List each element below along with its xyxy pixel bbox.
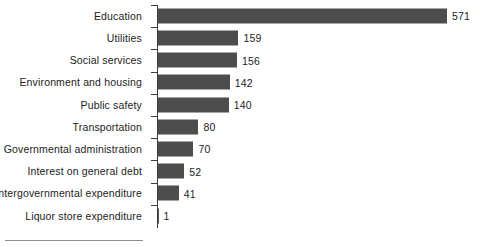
bar (158, 30, 238, 45)
bar-row: Education571 (0, 5, 480, 27)
bar (158, 75, 230, 90)
bar-and-value: 70 (158, 141, 210, 156)
bar-category-label: Liquor store expenditure (25, 210, 142, 222)
bar-value-label: 1 (164, 210, 170, 222)
axis-tick (151, 205, 157, 206)
axis-tick (151, 138, 157, 139)
bar (158, 208, 159, 223)
bar-row: Social services156 (0, 49, 480, 71)
bar-and-value: 142 (158, 75, 253, 90)
bar-row: Transportation80 (0, 116, 480, 138)
bar-row: Intergovernmental expenditure41 (0, 183, 480, 205)
bar-category-label: Education (94, 10, 142, 22)
bar-and-value: 571 (158, 8, 470, 23)
axis-tick (151, 183, 157, 184)
bar-category-label: Intergovernmental expenditure (0, 187, 142, 199)
bar-category-label: Utilities (107, 32, 142, 44)
bar-value-label: 80 (203, 121, 215, 133)
bar-value-label: 41 (184, 187, 196, 199)
bar (158, 8, 447, 23)
axis-tick (151, 5, 157, 6)
bar (158, 53, 237, 68)
bar-value-label: 159 (243, 32, 261, 44)
axis-tick (151, 116, 157, 117)
bar-category-label: Public safety (81, 99, 142, 111)
bar (158, 119, 198, 134)
axis-tick (151, 27, 157, 28)
bar-value-label: 70 (198, 143, 210, 155)
bar-and-value: 156 (158, 53, 260, 68)
bar (158, 164, 184, 179)
bar-row: Interest on general debt52 (0, 160, 480, 182)
bar-row: Public safety140 (0, 94, 480, 116)
bar-category-label: Governmental administration (4, 143, 142, 155)
bar-row: Utilities159 (0, 27, 480, 49)
bar-and-value: 80 (158, 119, 215, 134)
axis-tick (151, 160, 157, 161)
bar-row: Governmental administration70 (0, 138, 480, 160)
bar-category-label: Environment and housing (19, 76, 142, 88)
footnote-rule (5, 240, 143, 241)
bar-row: Environment and housing142 (0, 72, 480, 94)
bar-value-label: 52 (189, 165, 201, 177)
bar-and-value: 52 (158, 164, 201, 179)
bar-and-value: 1 (158, 208, 170, 223)
bar-category-label: Interest on general debt (27, 165, 142, 177)
bar-and-value: 159 (158, 30, 261, 45)
axis-tick (151, 72, 157, 73)
bar-category-label: Transportation (73, 121, 142, 133)
bar-value-label: 156 (242, 54, 260, 66)
bar-value-label: 142 (235, 76, 253, 88)
bar-row: Liquor store expenditure1 (0, 205, 480, 227)
bar-and-value: 41 (158, 186, 196, 201)
bar (158, 97, 229, 112)
bar-chart: Education571Utilities159Social services1… (0, 0, 480, 247)
bar (158, 186, 179, 201)
axis-tick (151, 49, 157, 50)
bar-category-label: Social services (70, 54, 142, 66)
plot-area: Education571Utilities159Social services1… (0, 0, 480, 247)
bar-and-value: 140 (158, 97, 252, 112)
bar-value-label: 140 (234, 99, 252, 111)
axis-tick (151, 94, 157, 95)
bar-value-label: 571 (452, 10, 470, 22)
bar (158, 141, 193, 156)
